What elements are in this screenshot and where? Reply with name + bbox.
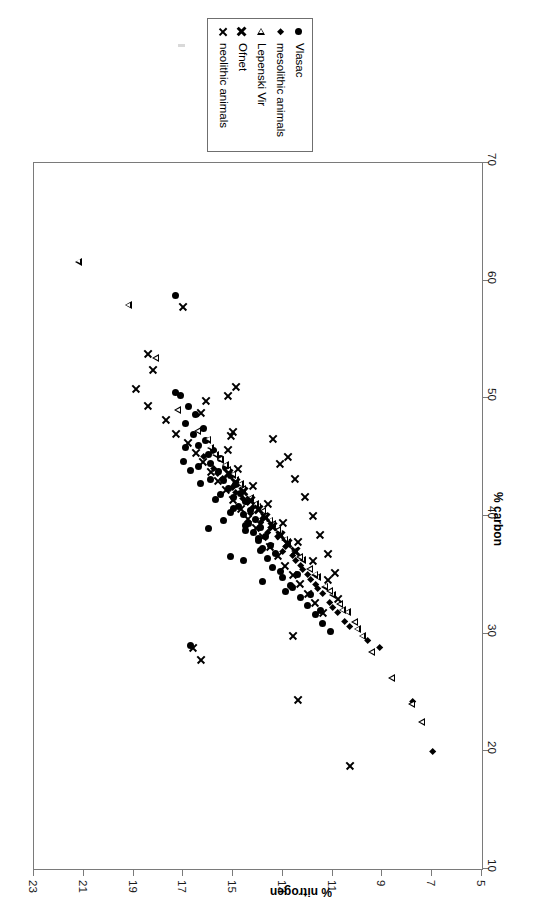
data-point	[246, 478, 260, 492]
nitrogen-axis-title: % nitrogen	[270, 885, 332, 899]
carbon-axis-tick-label: 10	[486, 859, 498, 872]
data-point	[236, 554, 250, 568]
data-point	[323, 624, 337, 638]
legend-label-neolithic-animals: neolithic animals	[217, 43, 229, 128]
data-point	[328, 565, 342, 579]
carbon-axis-title: % carbon	[491, 492, 505, 546]
data-point	[306, 554, 320, 568]
data-point	[221, 443, 235, 457]
legend-label-lepenski-vir: Lepenski Vir	[255, 43, 267, 106]
plot-frame	[33, 162, 483, 870]
nitrogen-axis-tick-label: 19	[126, 880, 138, 893]
data-point	[146, 363, 160, 377]
nitrogen-axis-tick-label: 17	[176, 880, 188, 893]
data-point	[331, 591, 345, 605]
nitrogen-axis-tick	[381, 869, 382, 876]
circle-filled-icon	[293, 25, 306, 38]
scan-artifact	[178, 44, 185, 47]
carbon-axis-tick-label: 50	[486, 388, 498, 401]
nitrogen-axis-tick	[431, 869, 432, 876]
carbon-axis-tick-label: 70	[486, 153, 498, 166]
nitrogen-axis-tick	[133, 869, 134, 876]
data-point	[405, 697, 419, 711]
data-point	[385, 671, 399, 685]
legend-entries-container: Vlasac mesolithic animals Lepenski Vir O…	[208, 19, 314, 153]
nitrogen-axis-tick	[33, 869, 34, 876]
data-point	[321, 547, 335, 561]
nitrogen-axis-tick-label: 21	[76, 880, 88, 893]
data-point	[298, 490, 312, 504]
data-point	[415, 715, 429, 729]
data-point	[306, 509, 320, 523]
legend-label-vlasac: Vlasac	[293, 43, 305, 78]
data-point	[316, 605, 330, 619]
legend-entry-neolithic-animals: neolithic animals	[214, 25, 233, 147]
scatter-plot-area	[34, 163, 482, 869]
data-point	[365, 645, 379, 659]
data-point	[229, 380, 243, 394]
data-point	[343, 758, 357, 772]
data-point	[159, 413, 173, 427]
nitrogen-axis-tick-label: 7	[425, 880, 437, 886]
data-point	[141, 398, 155, 412]
data-point	[291, 693, 305, 707]
data-point	[129, 382, 143, 396]
nitrogen-axis-tick	[182, 869, 183, 876]
data-point	[194, 653, 208, 667]
nitrogen-axis-tick	[282, 869, 283, 876]
legend-entry-ofnet: Ofnet	[233, 25, 252, 147]
diamond-filled-icon	[274, 25, 287, 38]
data-point	[288, 471, 302, 485]
legend-label-mesolithic-animals: mesolithic animals	[274, 43, 286, 137]
chart-page: Vlasac mesolithic animals Lepenski Vir O…	[0, 0, 544, 924]
data-point	[231, 462, 245, 476]
data-point	[291, 535, 305, 549]
data-point	[171, 403, 185, 417]
data-point	[256, 575, 270, 589]
data-point	[176, 300, 190, 314]
x-bold-icon	[236, 25, 249, 38]
data-point	[266, 431, 280, 445]
nitrogen-axis-tick-label: 15	[226, 880, 238, 893]
nitrogen-axis-tick	[232, 869, 233, 876]
carbon-axis-tick-label: 60	[486, 271, 498, 284]
nitrogen-axis-tick	[481, 869, 482, 876]
legend-entry-vlasac: Vlasac	[290, 25, 309, 147]
carbon-axis-tick-label: 20	[486, 741, 498, 754]
nitrogen-axis-tick-label: 5	[475, 880, 487, 886]
x-thin-icon	[217, 25, 230, 38]
data-point	[261, 497, 275, 511]
data-point	[351, 622, 365, 636]
legend-entry-mesolithic-animals: mesolithic animals	[271, 25, 290, 147]
data-point	[141, 347, 155, 361]
chart-legend: Vlasac mesolithic animals Lepenski Vir O…	[207, 18, 313, 152]
data-point	[313, 528, 327, 542]
nitrogen-axis-tick-label: 9	[375, 880, 387, 886]
legend-entry-lepenski-vir: Lepenski Vir	[252, 25, 271, 147]
data-point	[201, 433, 215, 447]
data-point	[122, 298, 136, 312]
nitrogen-axis-tick	[332, 869, 333, 876]
data-point	[425, 744, 439, 758]
data-point	[72, 255, 86, 269]
nitrogen-axis-tick	[83, 869, 84, 876]
legend-label-ofnet: Ofnet	[236, 43, 248, 71]
triangle-open-icon	[255, 25, 268, 38]
data-point	[276, 516, 290, 530]
data-point	[199, 394, 213, 408]
data-point	[286, 629, 300, 643]
carbon-axis-tick-label: 30	[486, 624, 498, 637]
data-point	[226, 424, 240, 438]
data-point	[201, 522, 215, 536]
data-point	[281, 450, 295, 464]
nitrogen-axis-tick-label: 23	[27, 880, 39, 893]
